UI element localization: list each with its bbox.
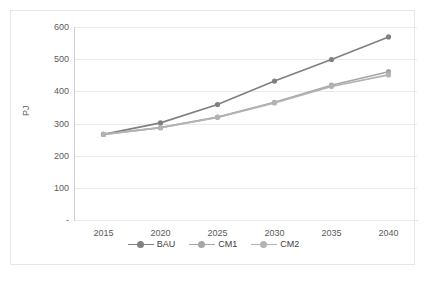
legend-item-cm2[interactable]: CM2 <box>251 239 299 249</box>
data-point-cm2 <box>386 72 391 77</box>
data-point-cm2 <box>101 132 106 137</box>
legend-swatch-icon <box>128 240 154 249</box>
legend-item-cm1[interactable]: CM1 <box>189 239 237 249</box>
data-point-cm2 <box>272 100 277 105</box>
data-point-bau <box>215 102 220 107</box>
legend-label: BAU <box>157 239 176 249</box>
legend-item-bau[interactable]: BAU <box>128 239 176 249</box>
data-point-bau <box>386 34 391 39</box>
chart-legend: BAUCM1CM2 <box>11 239 416 249</box>
series-line-bau <box>104 37 389 134</box>
legend-label: CM2 <box>280 239 299 249</box>
data-point-cm2 <box>215 115 220 120</box>
data-point-cm2 <box>158 125 163 130</box>
chart-container: PJ -100200300400500600 20152020202520302… <box>10 10 415 265</box>
legend-label: CM1 <box>218 239 237 249</box>
plot-series <box>11 11 416 266</box>
legend-swatch-icon <box>189 240 215 249</box>
data-point-cm2 <box>329 84 334 89</box>
legend-swatch-icon <box>251 240 277 249</box>
data-point-bau <box>272 78 277 83</box>
data-point-bau <box>329 57 334 62</box>
data-point-bau <box>158 120 163 125</box>
